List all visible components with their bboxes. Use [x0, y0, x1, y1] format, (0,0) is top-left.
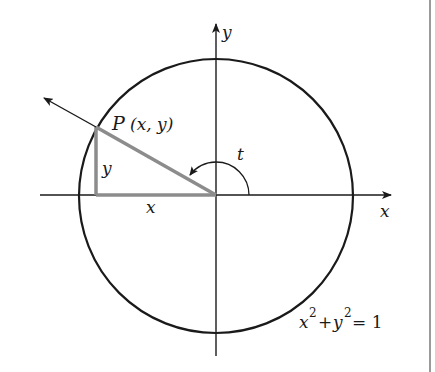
triangle-hypotenuse — [96, 127, 216, 195]
svg-text:x: x — [299, 312, 309, 332]
svg-text:2: 2 — [344, 306, 352, 320]
vertical-leg-label: y — [101, 158, 112, 178]
point-coords-label: (x, y) — [130, 114, 173, 134]
svg-text:+: + — [318, 312, 332, 332]
svg-text:2: 2 — [309, 306, 317, 320]
angle-arc — [190, 162, 249, 195]
circle-equation: x 2 + y 2 = 1 — [299, 306, 382, 332]
point-label: P — [111, 112, 126, 134]
angle-label: t — [237, 144, 244, 164]
y-axis-label: y — [221, 22, 232, 42]
diagram-svg: y x P (x, y) y x t x 2 + y 2 = 1 — [0, 0, 435, 372]
unit-circle-diagram: y x P (x, y) y x t x 2 + y 2 = 1 — [0, 0, 435, 372]
svg-text:y: y — [332, 312, 343, 332]
svg-text:= 1: = 1 — [352, 312, 382, 332]
x-axis-label: x — [380, 201, 390, 221]
terminal-ray — [44, 98, 96, 127]
horizontal-leg-label: x — [146, 197, 156, 217]
